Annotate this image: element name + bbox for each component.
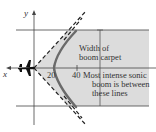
y-axis-label: y [24,9,28,18]
tick-label-40: 40 [72,71,81,80]
diagram-graphics [0,0,156,132]
intense-boom-label: Most intense sonic boom is between these… [83,71,150,98]
aircraft-icon [18,60,35,76]
width-label-line2: boom carpet [79,53,121,62]
intense-label-line3: these lines [83,89,150,98]
sonic-boom-diagram: y x 20 40 Width of boom carpet Most inte… [0,0,156,132]
x-axis-label: x [3,70,7,79]
y-axis-arrow-icon [32,10,36,15]
width-of-boom-carpet-label: Width of boom carpet [79,44,121,62]
tick-label-20: 20 [47,71,56,80]
